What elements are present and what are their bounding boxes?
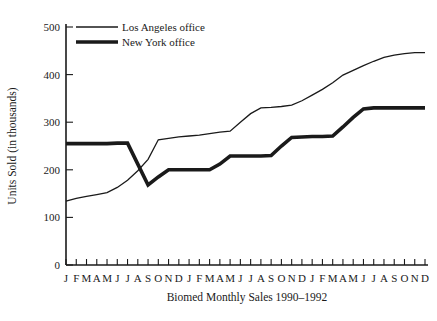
x-tick-label: J bbox=[115, 272, 120, 284]
x-tick-label: F bbox=[73, 272, 79, 284]
y-tick-label: 500 bbox=[44, 21, 61, 33]
x-tick-labels: JFMAMJJASONDJFMAMJJASONDJFMAMJJASOND bbox=[64, 272, 429, 284]
chart-container: Units Sold (in thousands) 500 400 300 20… bbox=[0, 0, 437, 321]
x-tick-label: M bbox=[328, 272, 338, 284]
line-chart: Units Sold (in thousands) 500 400 300 20… bbox=[0, 0, 437, 321]
y-tick-label: 100 bbox=[44, 211, 61, 223]
x-tick-label: N bbox=[288, 272, 296, 284]
x-tick-label: S bbox=[145, 272, 151, 284]
x-tick-label: J bbox=[238, 272, 243, 284]
x-tick-label: D bbox=[298, 272, 306, 284]
y-axis-title: Units Sold (in thousands) bbox=[6, 87, 19, 204]
x-tick-label: N bbox=[165, 272, 173, 284]
x-tick-label: J bbox=[248, 272, 253, 284]
legend-label-los-angeles-office: Los Angeles office bbox=[122, 21, 205, 33]
x-tick-label: M bbox=[82, 272, 92, 284]
y-tick-label: 0 bbox=[55, 259, 61, 271]
x-tick-label: N bbox=[411, 272, 419, 284]
y-tick-label: 200 bbox=[44, 164, 61, 176]
chart-legend: Los Angeles office New York office bbox=[76, 21, 205, 48]
x-tick-label: M bbox=[348, 272, 358, 284]
data-series-layer bbox=[66, 53, 425, 202]
x-tick-label: A bbox=[339, 272, 347, 284]
x-tick-label: M bbox=[225, 272, 235, 284]
y-tick-marks bbox=[66, 27, 73, 265]
x-tick-label: J bbox=[125, 272, 130, 284]
legend-label-new-york-office: New York office bbox=[122, 36, 195, 48]
x-tick-label: J bbox=[310, 272, 315, 284]
series-line-los-angeles-office bbox=[66, 53, 425, 202]
x-tick-label: O bbox=[401, 272, 409, 284]
x-tick-label: F bbox=[196, 272, 202, 284]
x-tick-label: O bbox=[277, 272, 285, 284]
x-tick-label: S bbox=[391, 272, 397, 284]
x-tick-label: A bbox=[380, 272, 388, 284]
x-tick-label: D bbox=[421, 272, 429, 284]
y-tick-labels: 500 400 300 200 100 0 bbox=[44, 21, 61, 271]
x-tick-label: M bbox=[102, 272, 112, 284]
x-tick-label: J bbox=[361, 272, 366, 284]
x-tick-label: S bbox=[268, 272, 274, 284]
y-tick-label: 400 bbox=[44, 69, 61, 81]
x-tick-marks bbox=[66, 259, 425, 265]
x-tick-label: A bbox=[216, 272, 224, 284]
x-tick-label: J bbox=[372, 272, 377, 284]
x-tick-label: O bbox=[154, 272, 162, 284]
x-tick-label: M bbox=[205, 272, 215, 284]
x-axis-title: Biomed Monthly Sales 1990–1992 bbox=[167, 291, 328, 304]
x-tick-label: A bbox=[134, 272, 142, 284]
x-tick-label: F bbox=[319, 272, 325, 284]
x-tick-label: D bbox=[175, 272, 183, 284]
y-tick-label: 300 bbox=[44, 116, 61, 128]
x-tick-label: J bbox=[64, 272, 69, 284]
series-line-new-york-office bbox=[66, 108, 425, 185]
x-tick-label: A bbox=[93, 272, 101, 284]
x-tick-label: J bbox=[187, 272, 192, 284]
x-tick-label: A bbox=[257, 272, 265, 284]
